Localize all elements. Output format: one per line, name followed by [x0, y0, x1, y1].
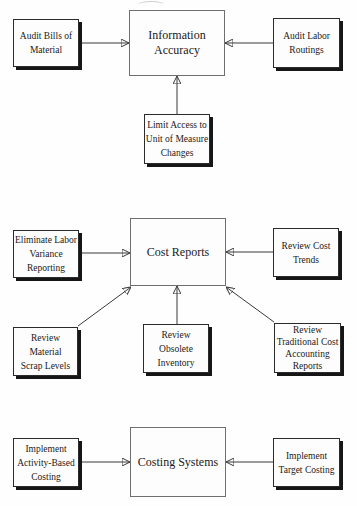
arrow-review-material-to-cost-reports — [78, 287, 131, 326]
node-audit-labor-routings: Audit Labor Routings — [273, 18, 340, 68]
node-label: Implement Target Costing — [279, 449, 335, 477]
node-label: Review Traditional Cost Accounting Repor… — [277, 324, 339, 372]
node-information-accuracy: Information Accuracy — [129, 10, 225, 76]
node-label: Information Accuracy — [148, 28, 205, 58]
node-label: Review Cost Trends — [282, 239, 331, 267]
arrow-review-traditional-to-cost-reports — [226, 287, 274, 322]
node-implement-target-costing: Implement Target Costing — [273, 438, 340, 487]
node-label: Eliminate Labor Variance Reporting — [15, 233, 77, 275]
node-label: Review Obsolete Inventory — [158, 328, 195, 370]
node-implement-activity-based-costing: Implement Activity-Based Costing — [13, 438, 79, 487]
node-review-obsolete-inventory: Review Obsolete Inventory — [143, 324, 209, 373]
node-label: Implement Activity-Based Costing — [17, 442, 75, 484]
node-label: Costing Systems — [138, 455, 218, 470]
node-cost-reports: Cost Reports — [130, 218, 226, 286]
node-label: Audit Labor Routings — [283, 29, 330, 57]
node-label: Audit Bills of Material — [20, 29, 72, 57]
node-label: Review Material Scrap Levels — [14, 331, 77, 373]
node-limit-access-unit-of-measure: Limit Access to Unit of Measure Changes — [144, 114, 210, 164]
diagram-canvas: Audit Bills of Material Information Accu… — [0, 0, 357, 506]
node-label: Cost Reports — [147, 245, 209, 260]
node-review-material-scrap-levels: Review Material Scrap Levels — [13, 327, 78, 376]
node-eliminate-labor-variance-reporting: Eliminate Labor Variance Reporting — [13, 230, 79, 278]
node-label: Limit Access to Unit of Measure Changes — [146, 118, 208, 160]
node-audit-bills-of-material: Audit Bills of Material — [13, 19, 79, 67]
node-review-traditional-cost-accounting-reports: Review Traditional Cost Accounting Repor… — [274, 323, 341, 373]
node-review-cost-trends: Review Cost Trends — [273, 228, 339, 277]
node-costing-systems: Costing Systems — [130, 427, 226, 497]
